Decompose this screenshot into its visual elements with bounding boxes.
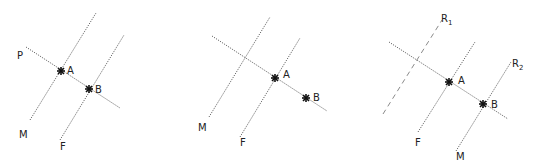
- panel-3: R1 R2 A B F M: [383, 13, 523, 162]
- label-a: A: [458, 75, 465, 86]
- label-b: B: [95, 84, 102, 95]
- label-f: F: [60, 141, 66, 152]
- label-a: A: [283, 69, 290, 80]
- line-r1: [383, 20, 442, 114]
- label-m: M: [198, 122, 207, 133]
- point-b: [85, 85, 93, 93]
- line-m: [209, 17, 270, 117]
- label-b: B: [313, 92, 320, 103]
- label-p: P: [17, 50, 23, 61]
- point-b: [302, 94, 310, 102]
- panel-1: P A B M F: [17, 13, 124, 152]
- label-b: B: [491, 99, 498, 110]
- diagram-canvas: P A B M F A B M F: [0, 0, 537, 165]
- line-p: [26, 47, 120, 108]
- panel-2: A B M F: [198, 17, 327, 148]
- label-a: A: [67, 65, 74, 76]
- line-f: [418, 42, 475, 132]
- label-f: F: [415, 137, 421, 148]
- point-b: [479, 100, 487, 108]
- point-a: [445, 78, 453, 86]
- label-m: M: [456, 151, 465, 162]
- point-a: [57, 67, 65, 75]
- label-r1: R1: [441, 13, 452, 27]
- label-m: M: [19, 129, 28, 140]
- label-r2: R2: [512, 58, 523, 72]
- line-transversal: [212, 36, 327, 111]
- label-f: F: [240, 137, 246, 148]
- line-f: [60, 35, 124, 140]
- line-m: [30, 13, 96, 120]
- point-a: [271, 74, 279, 82]
